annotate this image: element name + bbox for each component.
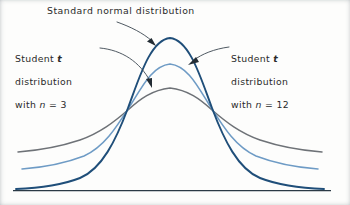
annotation-left-line1-italic: t xyxy=(57,53,62,64)
annotation-student-t-n3-line2: distribution xyxy=(15,76,72,88)
annotation-left-line3-value: = 3 xyxy=(46,99,67,110)
annotation-right-line3-prefix: with xyxy=(231,99,255,110)
right-leader-line xyxy=(194,47,229,60)
annotation-student-t-n12-line1: Student t xyxy=(231,53,289,65)
annotation-right-line3-value: = 12 xyxy=(262,99,289,110)
annotation-standard-normal-text: Standard normal distribution xyxy=(47,5,195,16)
annotation-student-t-n3-line3: with n = 3 xyxy=(15,99,72,111)
annotation-student-t-n12-line2: distribution xyxy=(231,76,289,88)
annotation-right-line1-italic: t xyxy=(273,53,278,64)
left-leader-arrowhead xyxy=(146,78,152,88)
annotation-student-t-n12-line3: with n = 12 xyxy=(231,99,289,111)
annotation-student-t-n12: Student t distribution with n = 12 xyxy=(231,41,289,122)
left-leader-line xyxy=(100,48,150,81)
annotation-student-t-n3: Student t distribution with n = 3 xyxy=(15,41,72,122)
title-leader-line xyxy=(117,22,152,41)
annotation-student-t-n3-line1: Student t xyxy=(15,53,72,65)
annotation-standard-normal: Standard normal distribution xyxy=(47,5,195,17)
title-leader-arrowhead xyxy=(147,38,156,46)
annotation-left-line1-text: Student xyxy=(15,53,57,64)
annotation-right-line1-text: Student xyxy=(231,53,273,64)
t-distribution-figure: Standard normal distribution Student t d… xyxy=(0,0,350,205)
annotation-left-line3-prefix: with xyxy=(15,99,39,110)
